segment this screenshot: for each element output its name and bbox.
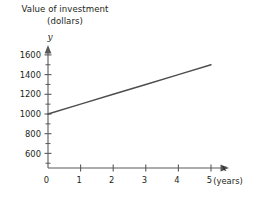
data-line-investment bbox=[48, 65, 211, 114]
y-tick-label: 1400 bbox=[20, 70, 41, 80]
x-tick-label: 2 bbox=[109, 175, 114, 185]
y-tick-label: 600 bbox=[25, 149, 41, 159]
x-axis-tick-labels: 012345 bbox=[44, 175, 212, 185]
caption-line-2: (dollars) bbox=[0, 16, 130, 28]
y-axis-arrowhead bbox=[45, 45, 52, 54]
y-tick-label: 1200 bbox=[20, 89, 41, 99]
y-tick-label: 1600 bbox=[20, 50, 41, 60]
y-axis-name-label: y bbox=[46, 32, 53, 42]
caption-line-1: Value of investment bbox=[0, 4, 130, 16]
y-tick-label: 1000 bbox=[20, 109, 41, 119]
x-tick-label: 4 bbox=[174, 175, 179, 185]
x-axis-name-label: x bbox=[221, 163, 226, 173]
x-axis-units-label: (years) bbox=[213, 176, 243, 186]
chart-caption: Value of investment (dollars) bbox=[0, 4, 130, 27]
x-tick-label: 0 bbox=[44, 175, 49, 185]
x-tick-label: 1 bbox=[76, 175, 81, 185]
x-tick-label: 3 bbox=[142, 175, 147, 185]
investment-growth-chart: Value of investment (dollars) 6008001000… bbox=[0, 0, 260, 205]
data-series-group bbox=[48, 65, 211, 114]
y-axis-tick-labels: 6008001000120014001600 bbox=[20, 50, 41, 159]
x-tick-label: 5 bbox=[207, 175, 212, 185]
y-tick-label: 800 bbox=[25, 129, 41, 139]
plot-area: 6008001000120014001600 012345 y x (years… bbox=[0, 0, 260, 205]
